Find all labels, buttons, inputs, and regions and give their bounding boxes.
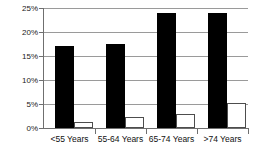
- x-tick-label-2: 55-64 Years: [95, 134, 146, 145]
- x-tick-label-4: >74 Years: [197, 134, 248, 145]
- y-tick-label: 10%: [2, 76, 38, 85]
- y-tick-15: 15%: [0, 52, 38, 61]
- bar-light-group-4: [227, 103, 246, 128]
- bar-light-group-3: [176, 114, 195, 128]
- bar-chart: 25% 20% 15% 10% 5% 0%: [0, 0, 255, 152]
- y-tick-label: 25%: [2, 4, 38, 13]
- y-tick-label: 15%: [2, 52, 38, 61]
- y-tick-20: 20%: [0, 28, 38, 37]
- plot-area: [44, 8, 248, 128]
- y-tick-25: 25%: [0, 4, 38, 13]
- bar-light-group-1: [74, 122, 93, 128]
- bar-light-group-2: [125, 117, 144, 128]
- y-tick-label: 0%: [2, 124, 38, 133]
- x-tick-label-1: <55 Years: [44, 134, 95, 145]
- bar-dark-group-2: [106, 44, 125, 128]
- bar-dark-group-1: [55, 46, 74, 128]
- gridline-25: [44, 8, 248, 9]
- y-tick-5: 5%: [0, 100, 38, 109]
- y-tick-label: 5%: [2, 100, 38, 109]
- x-separator: [248, 129, 249, 134]
- y-tick-label: 20%: [2, 28, 38, 37]
- bar-dark-group-4: [208, 13, 227, 128]
- bar-dark-group-3: [157, 13, 176, 128]
- y-tick-10: 10%: [0, 76, 38, 85]
- x-tick-label-3: 65-74 Years: [146, 134, 197, 145]
- y-tick-0: 0%: [0, 124, 38, 133]
